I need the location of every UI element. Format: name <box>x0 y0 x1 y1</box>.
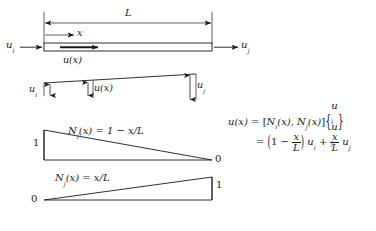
displacement-distribution-diagram <box>44 74 196 100</box>
equation-lhs: u(x) <box>228 116 248 127</box>
x-axis-label: x <box>77 28 82 38</box>
term-uj-subscript: j <box>349 144 351 151</box>
interior-displacement-label: u(x) <box>63 55 82 65</box>
nj-equation-label: Nj(x) = x/L <box>55 173 110 183</box>
displacement-profile-line <box>44 74 196 83</box>
vector-ui-symbol: u <box>331 101 337 112</box>
constant-one: 1 <box>271 136 277 147</box>
nj-term-subscript: j <box>306 123 308 130</box>
nj-term-symbol: N <box>297 116 306 127</box>
displacement-mid-label: u(x) <box>94 83 113 93</box>
fraction2-numerator: x <box>330 132 339 142</box>
term-ui-symbol: u <box>307 136 313 147</box>
nj-equation-rhs: = x/L <box>82 172 109 183</box>
vector-brace-close: } <box>338 113 344 130</box>
term-ui-subscript: i <box>314 144 316 151</box>
ni-right-value: 0 <box>215 154 221 164</box>
displacement-right-label: uj <box>197 80 205 90</box>
paren-close: ) <box>301 134 304 150</box>
nj-function-subscript: j <box>64 180 66 187</box>
ni-function-symbol: N <box>68 125 77 136</box>
nj-function-symbol: N <box>55 172 64 183</box>
fraction2-denominator: L <box>330 142 339 153</box>
displacement-left-subscript: i <box>35 92 37 98</box>
displacement-left-label: ui <box>29 84 37 94</box>
fraction-x-over-L-first: xL <box>292 132 301 154</box>
matrix-equation-line2: = (1 − xL) ui + xL uj <box>256 132 351 154</box>
length-label: L <box>125 8 132 18</box>
nj-left-value: 0 <box>31 194 37 204</box>
ni-equation-rhs: = 1 − x/L <box>95 125 143 136</box>
fraction1-numerator: x <box>292 132 301 142</box>
minus-operator: − <box>281 136 289 147</box>
term-uj-symbol: u <box>342 136 348 147</box>
equation2-equals: = <box>256 136 264 147</box>
nj-right-value: 1 <box>216 180 222 190</box>
ni-term-argument: (x), <box>277 116 294 127</box>
ni-term-symbol: N <box>267 116 276 127</box>
equation-equals: = <box>251 116 259 127</box>
nj-function-argument: (x) <box>66 172 79 183</box>
plus-operator: + <box>319 136 327 147</box>
displacement-right-subscript: j <box>203 88 205 94</box>
paren-open: ( <box>268 134 271 150</box>
vector-ui-subscript: i <box>331 118 333 125</box>
ni-equation-label: Ni(x) = 1 − x/L <box>68 126 144 136</box>
ni-function-subscript: i <box>77 133 79 140</box>
ni-left-value: 1 <box>33 138 39 148</box>
ni-function-argument: (x) <box>79 125 92 136</box>
nj-term-argument: (x) <box>308 116 321 127</box>
fraction1-denominator: L <box>292 142 301 153</box>
ni-term-subscript: i <box>275 123 277 130</box>
right-node-label: uj <box>241 40 249 50</box>
fraction-x-over-L-second: xL <box>330 132 339 154</box>
left-node-label: ui <box>6 40 14 50</box>
